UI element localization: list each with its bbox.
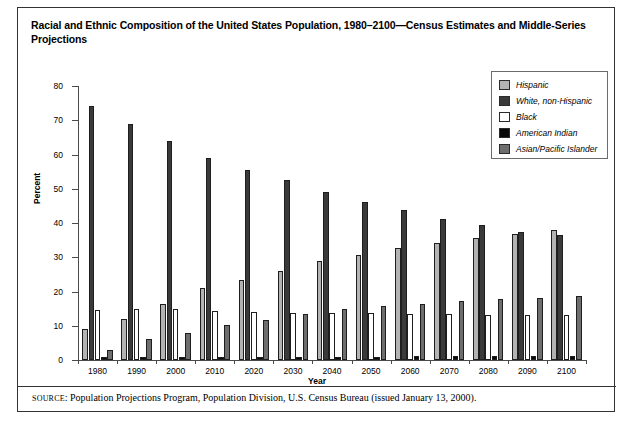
figure-panel: Racial and Ethnic Composition of the Uni… xyxy=(17,7,615,412)
legend-item-hispanic[interactable]: Hispanic xyxy=(499,77,607,93)
legend-swatch-icon xyxy=(499,128,510,138)
y-axis-tick: 60 xyxy=(72,155,78,156)
legend-item-asian-pacific-islander[interactable]: Asian/Pacific Islander xyxy=(499,141,607,157)
bar xyxy=(206,158,212,360)
bar xyxy=(239,280,245,360)
bar-group xyxy=(278,86,308,360)
bar xyxy=(551,230,557,360)
x-axis-tick xyxy=(469,360,470,364)
x-axis-tick xyxy=(234,360,235,364)
y-axis-tick-label: 40 xyxy=(54,218,63,228)
bar xyxy=(368,313,374,360)
x-axis-tick-label: 2020 xyxy=(244,366,263,376)
y-axis-tick-label: 20 xyxy=(54,287,63,297)
bar xyxy=(518,232,524,360)
legend-item-black[interactable]: Black xyxy=(499,109,607,125)
y-axis-tick-label: 0 xyxy=(58,355,63,365)
x-axis-tick xyxy=(156,360,157,364)
bar-group xyxy=(356,86,386,360)
bar xyxy=(420,304,426,361)
bar xyxy=(128,124,134,360)
source-label: SOURCE xyxy=(32,394,65,403)
x-axis-tick-label: 2050 xyxy=(362,366,381,376)
x-axis-tick-label: 2080 xyxy=(479,366,498,376)
x-axis-tick-label: 2040 xyxy=(323,366,342,376)
source-divider xyxy=(18,386,616,387)
bar xyxy=(95,310,101,360)
bar xyxy=(407,314,413,360)
legend-item-american-indian[interactable]: American Indian xyxy=(499,125,607,141)
y-axis-tick-label: 30 xyxy=(54,252,63,262)
x-axis-tick-label: 2000 xyxy=(166,366,185,376)
legend-label: Hispanic xyxy=(516,80,549,90)
bar xyxy=(434,243,440,360)
y-axis-tick-label: 80 xyxy=(54,81,63,91)
bar xyxy=(296,357,302,360)
bar xyxy=(212,311,218,360)
bar xyxy=(257,357,263,360)
bar xyxy=(564,315,570,360)
x-axis-tick xyxy=(547,360,548,364)
x-axis-tick-label: 2010 xyxy=(205,366,224,376)
x-axis-title: Year xyxy=(18,376,616,386)
bar xyxy=(245,170,251,360)
x-axis-tick-label: 1980 xyxy=(88,366,107,376)
y-axis-tick: 70 xyxy=(72,120,78,121)
bar xyxy=(278,271,284,360)
y-axis-tick: 20 xyxy=(72,292,78,293)
chart-legend: HispanicWhite, non-HispanicBlackAmerican… xyxy=(491,71,608,159)
y-axis-tick-label: 60 xyxy=(54,150,63,160)
bar xyxy=(329,313,335,360)
bar xyxy=(185,333,191,360)
bar xyxy=(101,357,107,360)
legend-item-white-non-hispanic[interactable]: White, non-Hispanic xyxy=(499,93,607,109)
y-axis-tick-label: 70 xyxy=(54,115,63,125)
bar xyxy=(570,356,576,360)
y-axis-tick: 40 xyxy=(72,223,78,224)
bar xyxy=(89,106,95,360)
x-axis-tick xyxy=(117,360,118,364)
legend-swatch-icon xyxy=(499,112,510,122)
x-axis-tick-label: 2100 xyxy=(557,366,576,376)
x-axis-tick xyxy=(391,360,392,364)
bar xyxy=(401,210,407,360)
bar-group xyxy=(317,86,347,360)
x-axis-tick xyxy=(195,360,196,364)
legend-label: Black xyxy=(516,112,537,122)
x-axis-tick xyxy=(586,360,587,364)
y-axis-title: Percent xyxy=(32,173,42,204)
bar xyxy=(525,315,531,360)
y-axis-tick: 50 xyxy=(72,189,78,190)
x-axis-tick xyxy=(430,360,431,364)
bar-group xyxy=(434,86,464,360)
bar-group xyxy=(239,86,269,360)
bar xyxy=(134,309,140,360)
bar xyxy=(356,255,362,360)
bar xyxy=(290,313,296,360)
bar xyxy=(179,357,185,360)
x-axis-tick-label: 2060 xyxy=(401,366,420,376)
x-axis-tick-label: 2030 xyxy=(283,366,302,376)
legend-swatch-icon xyxy=(499,144,510,154)
legend-label: White, non-Hispanic xyxy=(516,96,592,106)
bar xyxy=(453,356,459,360)
x-axis-tick xyxy=(273,360,274,364)
bar xyxy=(459,301,465,360)
bar xyxy=(140,357,146,360)
x-axis-tick xyxy=(352,360,353,364)
bar xyxy=(473,238,479,360)
bar xyxy=(479,225,485,360)
bar xyxy=(342,309,348,360)
x-axis-tick xyxy=(508,360,509,364)
x-axis-tick-label: 2070 xyxy=(440,366,459,376)
bar xyxy=(82,329,88,360)
bar xyxy=(107,350,113,360)
y-axis-tick: 10 xyxy=(72,326,78,327)
bar xyxy=(146,339,152,360)
x-axis-tick xyxy=(312,360,313,364)
bar xyxy=(323,192,329,360)
bar-group xyxy=(121,86,151,360)
source-text: : Population Projections Program, Popula… xyxy=(65,392,477,403)
x-axis-tick-label: 2090 xyxy=(518,366,537,376)
legend-swatch-icon xyxy=(499,96,510,106)
